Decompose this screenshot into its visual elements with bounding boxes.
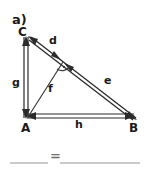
figure-page: a): [0, 0, 148, 170]
answer-row[interactable]: =: [10, 148, 140, 163]
hypotenuse-inner-line: [29, 40, 133, 120]
side-label-f: f: [48, 82, 53, 95]
hypotenuse-dimension: [28, 36, 137, 120]
side-label-d: d: [49, 34, 57, 47]
side-label-h: h: [75, 118, 83, 131]
side-label-g: g: [12, 76, 20, 89]
altitude-segment-f: [28, 62, 63, 117]
vertex-label-c: C: [18, 25, 27, 39]
geometry-figure: a): [0, 0, 148, 170]
right-angle-dot: [63, 66, 65, 68]
vertex-label-a: A: [21, 121, 31, 135]
vertex-label-b: B: [129, 121, 138, 135]
equals-sign: =: [50, 148, 61, 163]
side-label-e: e: [104, 74, 111, 87]
vertical-dimension-g: [22, 36, 30, 119]
hypotenuse-outer-line: [31, 37, 136, 118]
